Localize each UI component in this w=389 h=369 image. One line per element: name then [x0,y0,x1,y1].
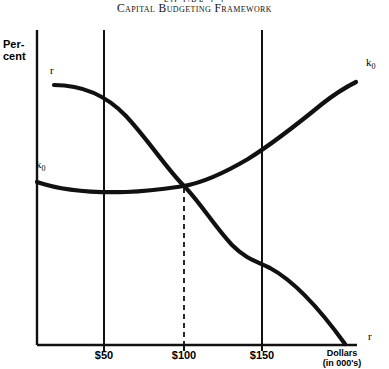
curve-label-r-bottom: r [368,330,372,342]
plot-area [0,0,389,369]
curve-label-k0-left: k0 [36,158,46,173]
curve-label-k0-right-sub: 0 [372,62,376,71]
figure-container: FIGURE 1-1 Capital Budgeting Framework P… [0,0,389,369]
curve-label-k0-left-sub: 0 [42,164,46,173]
curve-k0 [37,82,356,192]
curve-label-k0-right: k0 [366,56,376,71]
curve-r [54,85,345,344]
tick-label-50: $50 [95,349,113,361]
tick-label-100: $100 [172,349,196,361]
curve-label-r-top: r [50,64,54,76]
tick-label-150: $150 [250,349,274,361]
